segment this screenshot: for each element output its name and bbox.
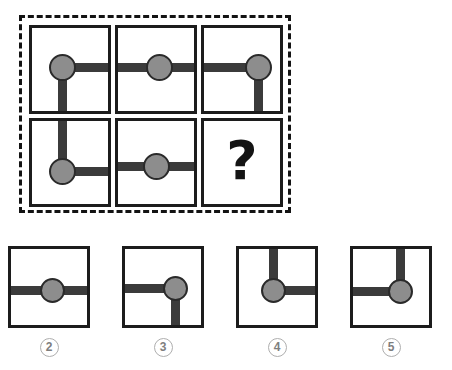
node-circle <box>261 278 286 303</box>
node-circle <box>49 158 76 185</box>
answer-option-3-label: 3 <box>122 337 204 357</box>
answer-option-4-box[interactable] <box>236 246 318 328</box>
matrix-cell-1 <box>29 25 111 114</box>
option-number-badge: 5 <box>382 338 401 357</box>
matrix-dashed-frame: ? <box>19 15 291 213</box>
figure <box>11 249 87 325</box>
figure <box>118 121 194 204</box>
answer-option-5[interactable]: 5 <box>350 246 432 357</box>
node-circle <box>245 54 272 81</box>
answer-option-3-box[interactable] <box>122 246 204 328</box>
matrix-cell-missing: ? <box>201 118 283 207</box>
node-circle <box>163 276 188 301</box>
answer-option-5-box[interactable] <box>350 246 432 328</box>
option-number-badge: 2 <box>40 338 59 357</box>
node-circle <box>49 54 76 81</box>
figure <box>204 28 280 111</box>
question-mark-icon: ? <box>204 121 280 204</box>
answer-option-4[interactable]: 4 <box>236 246 318 357</box>
node-circle <box>143 153 170 180</box>
matrix-cell-5 <box>115 118 197 207</box>
answer-option-2-box[interactable] <box>8 246 90 328</box>
answer-options-row: 2345 <box>0 246 452 366</box>
node-circle <box>40 278 65 303</box>
figure <box>32 121 108 204</box>
figure <box>353 249 429 325</box>
node-circle <box>388 279 413 304</box>
matrix-grid: ? <box>29 25 283 207</box>
option-number-badge: 3 <box>154 338 173 357</box>
option-number-badge: 4 <box>268 338 287 357</box>
matrix-cell-4 <box>29 118 111 207</box>
figure <box>125 249 201 325</box>
matrix-cell-2 <box>115 25 197 114</box>
matrix-cell-3 <box>201 25 283 114</box>
answer-option-2-label: 2 <box>8 337 90 357</box>
figure <box>239 249 315 325</box>
node-circle <box>146 54 173 81</box>
answer-option-4-label: 4 <box>236 337 318 357</box>
figure <box>32 28 108 111</box>
figure <box>118 28 194 111</box>
answer-option-2[interactable]: 2 <box>8 246 90 357</box>
answer-option-5-label: 5 <box>350 337 432 357</box>
answer-option-3[interactable]: 3 <box>122 246 204 357</box>
